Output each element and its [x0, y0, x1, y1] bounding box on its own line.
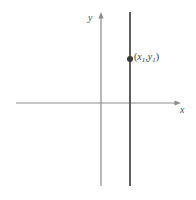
- point-coordinate-label: (x1,y1): [134, 52, 159, 62]
- y-axis-label: y: [88, 13, 92, 23]
- point-label-close-paren: ): [156, 51, 159, 62]
- point-label-x-subscript: 1: [142, 56, 146, 64]
- plotted-point-marker: [127, 56, 133, 62]
- x-axis-label: x: [180, 105, 184, 115]
- y-axis-arrowhead: [98, 12, 103, 19]
- coordinate-plane-figure: y x (x1,y1): [0, 0, 196, 200]
- point-label-y-subscript: 1: [152, 56, 156, 64]
- figure-canvas: [0, 0, 196, 200]
